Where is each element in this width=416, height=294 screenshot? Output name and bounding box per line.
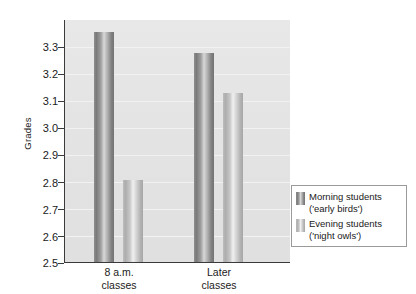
plot-area bbox=[64, 20, 290, 263]
y-tick-label: 2.9 bbox=[32, 150, 58, 161]
legend-label-evening-line1: Evening students bbox=[309, 218, 382, 229]
chart-legend: Morning students ('early birds') Evening… bbox=[291, 185, 407, 247]
y-tick-label: 2.8 bbox=[32, 178, 58, 189]
x-tick-label-line2: classes bbox=[101, 279, 136, 291]
y-tick-label: 2.5 bbox=[32, 258, 58, 269]
x-tick-label-8am: 8 a.m. classes bbox=[64, 266, 174, 292]
legend-item-morning: Morning students ('early birds') bbox=[296, 191, 402, 214]
x-tick-label-later: Later classes bbox=[164, 266, 274, 292]
y-tick-label: 3.3 bbox=[32, 42, 58, 53]
y-tick-label: 3.1 bbox=[32, 96, 58, 107]
bar-morning-8am bbox=[94, 32, 114, 262]
legend-label-morning: Morning students ('early birds') bbox=[309, 191, 382, 214]
y-tick-mark bbox=[58, 263, 64, 264]
y-tick-label: 2.6 bbox=[32, 232, 58, 243]
legend-label-morning-line1: Morning students bbox=[309, 191, 382, 202]
bar-evening-8am bbox=[123, 180, 143, 262]
bar-chart-figure: Grades 3.3 3.2 3.1 3.0 2.9 2.8 2.7 2.6 2… bbox=[0, 0, 416, 294]
legend-item-evening: Evening students ('night owls') bbox=[296, 218, 402, 241]
y-axis-tick-labels: 3.3 3.2 3.1 3.0 2.9 2.8 2.7 2.6 2.5 bbox=[30, 0, 58, 294]
x-tick-label-line1: 8 a.m. bbox=[104, 266, 133, 278]
legend-swatch-evening-icon bbox=[296, 219, 305, 232]
x-tick-label-line2: classes bbox=[201, 279, 236, 291]
legend-label-morning-line2: ('early birds') bbox=[309, 203, 382, 215]
legend-label-evening-line2: ('night owls') bbox=[309, 230, 382, 242]
legend-label-evening: Evening students ('night owls') bbox=[309, 218, 382, 241]
x-tick-label-line1: Later bbox=[207, 266, 231, 278]
bar-morning-later bbox=[194, 53, 214, 262]
y-tick-label: 3.0 bbox=[32, 123, 58, 134]
y-tick-label: 3.2 bbox=[32, 69, 58, 80]
bar-evening-later bbox=[223, 93, 243, 262]
y-tick-label: 2.7 bbox=[32, 205, 58, 216]
legend-swatch-morning-icon bbox=[296, 192, 305, 205]
